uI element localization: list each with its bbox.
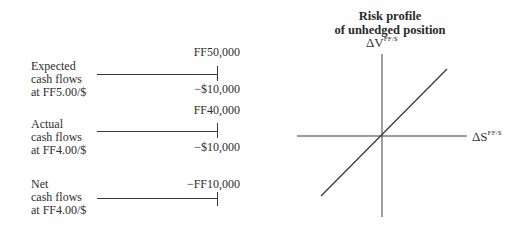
risk-profile-plot [0,0,518,231]
payoff-line [321,69,447,196]
